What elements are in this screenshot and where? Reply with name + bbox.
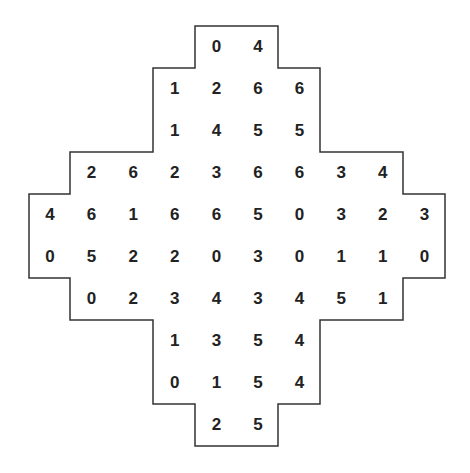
grid-cell: 2 (195, 68, 237, 110)
grid-cell: 1 (362, 236, 404, 278)
grid-cell: 2 (154, 236, 196, 278)
grid-cell: 5 (237, 320, 279, 362)
grid-cell: 5 (237, 110, 279, 152)
grid-cell: 0 (403, 236, 445, 278)
grid-cell: 0 (195, 26, 237, 68)
grid-cell: 5 (237, 404, 279, 446)
grid-cell: 4 (279, 320, 321, 362)
grid-cell: 6 (195, 194, 237, 236)
grid-cell: 5 (279, 110, 321, 152)
grid-cell: 0 (154, 362, 196, 404)
grid-cell: 0 (279, 236, 321, 278)
grid-cell: 4 (195, 110, 237, 152)
grid-cell: 2 (154, 152, 196, 194)
grid-cell: 5 (237, 194, 279, 236)
grid-cell: 6 (154, 194, 196, 236)
grid-cell: 0 (195, 236, 237, 278)
puzzle-board: 0412661455262366344616650323052203011002… (0, 0, 470, 473)
grid-cell: 2 (112, 236, 154, 278)
grid-cell: 1 (362, 278, 404, 320)
grid-cell: 4 (237, 26, 279, 68)
grid-cell: 0 (279, 194, 321, 236)
grid-cell: 6 (112, 152, 154, 194)
grid-cell: 3 (195, 152, 237, 194)
grid-cell: 1 (195, 362, 237, 404)
grid-cell: 5 (237, 362, 279, 404)
grid-cell: 4 (195, 278, 237, 320)
grid-cell: 6 (279, 68, 321, 110)
grid-cell: 5 (71, 236, 113, 278)
grid-cell: 1 (320, 236, 362, 278)
grid-cell: 1 (154, 320, 196, 362)
grid-cell: 3 (320, 152, 362, 194)
grid-cell: 4 (279, 362, 321, 404)
grid-cell: 3 (154, 278, 196, 320)
grid-cell: 2 (195, 404, 237, 446)
grid-cell: 3 (403, 194, 445, 236)
grid-cell: 1 (112, 194, 154, 236)
grid-cell: 3 (195, 320, 237, 362)
grid-cell: 5 (320, 278, 362, 320)
grid-cell: 0 (71, 278, 113, 320)
grid-cell: 0 (29, 236, 71, 278)
grid-cell: 3 (237, 236, 279, 278)
grid-cell: 6 (237, 152, 279, 194)
grid-cell: 2 (71, 152, 113, 194)
grid-cell: 3 (237, 278, 279, 320)
grid-cell: 2 (112, 278, 154, 320)
grid-cell: 2 (362, 194, 404, 236)
grid-cell: 4 (362, 152, 404, 194)
grid-cell: 6 (279, 152, 321, 194)
grid-cell: 4 (29, 194, 71, 236)
grid-cell: 4 (279, 278, 321, 320)
grid-cell: 3 (320, 194, 362, 236)
grid-cell: 1 (154, 68, 196, 110)
grid-cell: 1 (154, 110, 196, 152)
grid-cell: 6 (237, 68, 279, 110)
grid-cell: 6 (71, 194, 113, 236)
